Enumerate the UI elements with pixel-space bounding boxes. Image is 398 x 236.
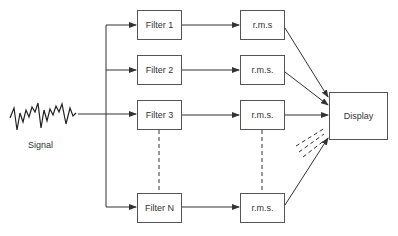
rms-n-block: r.m.s. bbox=[240, 193, 285, 223]
display-block: Display bbox=[329, 92, 388, 140]
filter-n-block: Filter N bbox=[137, 193, 182, 223]
filter-2-label: Filter 2 bbox=[146, 65, 174, 75]
filter-2-block: Filter 2 bbox=[137, 55, 182, 85]
rms-3-label: r.m.s. bbox=[252, 110, 274, 120]
noisy-waveform-icon bbox=[10, 103, 76, 130]
signal-label: Signal bbox=[28, 140, 53, 150]
filter-3-label: Filter 3 bbox=[146, 110, 174, 120]
rms-n-label: r.m.s. bbox=[252, 203, 274, 213]
rms-1-block: r.m.s bbox=[240, 10, 285, 40]
rms-2-block: r.m.s. bbox=[240, 55, 285, 85]
filter-1-block: Filter 1 bbox=[137, 10, 182, 40]
filter-3-block: Filter 3 bbox=[137, 100, 182, 130]
filter-1-label: Filter 1 bbox=[146, 20, 174, 30]
display-label: Display bbox=[344, 111, 374, 121]
rms-2-label: r.m.s. bbox=[252, 65, 274, 75]
filter-n-label: Filter N bbox=[145, 203, 174, 213]
rms-3-block: r.m.s. bbox=[240, 100, 285, 130]
rms-1-label: r.m.s bbox=[253, 20, 273, 30]
